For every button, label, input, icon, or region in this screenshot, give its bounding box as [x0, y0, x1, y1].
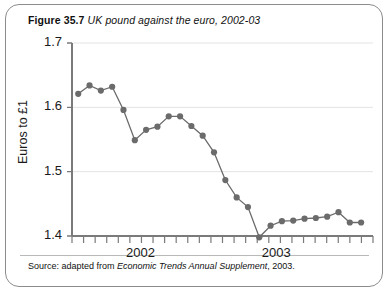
data-point	[120, 107, 126, 113]
data-point	[301, 216, 307, 222]
data-point	[267, 223, 273, 229]
data-point	[256, 234, 262, 240]
data-point	[188, 123, 194, 129]
source-divider	[20, 255, 369, 256]
source-note: Source: adapted from Economic Trends Ann…	[28, 261, 295, 271]
data-point	[132, 137, 138, 143]
data-point	[109, 84, 115, 90]
data-point	[154, 124, 160, 130]
data-point	[290, 217, 296, 223]
y-tick-label: 1.5	[28, 163, 62, 178]
x-tick-label: 2002	[110, 245, 170, 260]
data-point	[358, 219, 364, 225]
chart-canvas	[6, 5, 383, 287]
x-tick-label: 2003	[246, 245, 306, 260]
source-title: Economic Trends Annual Supplement	[117, 261, 267, 271]
data-point	[324, 214, 330, 220]
data-point	[166, 113, 172, 119]
series-line	[78, 85, 361, 237]
y-tick-label: 1.6	[28, 98, 62, 113]
data-point	[86, 82, 92, 88]
source-suffix: , 2003.	[267, 261, 295, 271]
data-point	[200, 133, 206, 139]
data-point	[347, 219, 353, 225]
data-point	[75, 91, 81, 97]
data-point	[279, 218, 285, 224]
data-point	[211, 149, 217, 155]
data-point	[98, 88, 104, 94]
y-tick-label: 1.7	[28, 34, 62, 49]
source-prefix: Source: adapted from	[28, 261, 115, 271]
data-point	[245, 204, 251, 210]
data-point	[313, 215, 319, 221]
y-tick-label: 1.4	[28, 227, 62, 242]
data-point	[335, 209, 341, 215]
data-point	[234, 194, 240, 200]
data-point	[143, 127, 149, 133]
data-point	[222, 177, 228, 183]
data-point	[177, 113, 183, 119]
figure-frame: Figure 35.7 UK pound against the euro, 2…	[5, 4, 383, 287]
